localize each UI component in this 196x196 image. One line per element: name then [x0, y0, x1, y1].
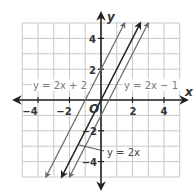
coordinate-plane: x y O −4 −2 2 4 4 2 −2 −4 y = 2x + 2 y =… [0, 0, 196, 196]
x-tick-label: 2 [130, 106, 137, 117]
y-tick-label: 2 [89, 65, 96, 76]
graph-svg: x y O −4 −2 2 4 4 2 −2 −4 y = 2x + 2 y =… [0, 0, 196, 196]
x-axis-label: x [184, 85, 194, 99]
origin-label: O [89, 102, 99, 116]
y-axis-label: y [107, 10, 116, 24]
x-tick-label: 4 [161, 106, 168, 117]
equation-label-2x-minus-1: y = 2x − 1 [124, 80, 178, 91]
y-tick-label: 4 [89, 34, 96, 45]
y-tick-label: −2 [82, 126, 97, 137]
equation-label-2x-plus-2: y = 2x + 2 [33, 80, 87, 91]
x-tick-label: −4 [22, 106, 37, 117]
x-tick-label: −2 [56, 106, 71, 117]
equation-label-2x: y = 2x [107, 147, 140, 158]
y-tick-label: −4 [82, 157, 97, 168]
